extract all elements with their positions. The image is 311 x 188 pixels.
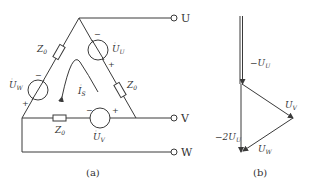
phasor-neg-uu-label: −UU [250, 58, 271, 69]
terminal-u [171, 15, 177, 21]
impedance-bottom [53, 115, 66, 121]
phasor-neg2-uu-label: −2UU [215, 132, 242, 143]
svg-text:−: − [86, 106, 93, 115]
impedance-bottom-label: Z0 [54, 125, 65, 136]
phasor-uw [243, 118, 293, 151]
svg-text:+: + [112, 106, 119, 115]
impedance-left [53, 44, 65, 59]
terminal-w [171, 149, 177, 155]
phasor-uv-label: UV [285, 100, 298, 111]
terminal-w-label: W [181, 146, 193, 159]
svg-text:−: − [94, 30, 101, 39]
terminal-v [171, 115, 177, 121]
svg-text:·: · [95, 127, 97, 134]
svg-text:·: · [11, 75, 13, 82]
phasor-uw-label: UW [258, 144, 273, 155]
impedance-left-label: Z0 [36, 44, 47, 55]
svg-text:·: · [80, 81, 82, 88]
figure-b: −UU UV UW −2UU (b) [215, 16, 298, 178]
source-uv [90, 108, 110, 128]
svg-text:+: + [22, 99, 29, 108]
svg-text:−: − [35, 71, 42, 80]
svg-text:+: + [108, 60, 115, 69]
svg-text:·: · [114, 39, 116, 46]
impedance-right [114, 82, 126, 97]
circuit-diagram: U Z0 − + UW · − + UU · Z0 V Z0 − + [0, 0, 311, 188]
caption-b: (b) [253, 167, 267, 178]
figure-a: U Z0 − + UW · − + UU · Z0 V Z0 − + [9, 12, 193, 178]
terminal-u-label: U [181, 12, 190, 25]
terminal-v-label: V [180, 112, 190, 125]
caption-a: (a) [86, 167, 100, 178]
impedance-right-label: Z0 [126, 80, 137, 91]
